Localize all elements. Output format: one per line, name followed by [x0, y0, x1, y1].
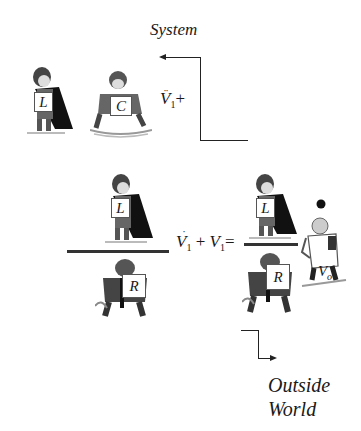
resistor-card-right: R [266, 264, 290, 290]
arrow-out-horizontal-top [241, 330, 258, 331]
arrow-in-horizontal-top [164, 57, 201, 58]
arrow-out-vertical [258, 330, 259, 359]
inductor-card-right: L [256, 198, 275, 218]
inductor-card-left: L [111, 198, 130, 218]
arrow-left-icon [159, 54, 166, 60]
system-label: System [150, 20, 197, 40]
capacitor-card: C [110, 96, 132, 116]
second-derivative-term: ¨ V1 + [160, 89, 185, 110]
arrow-in-horizontal-bottom [200, 140, 248, 141]
main-equation: ˙ V1 + V1= [176, 232, 234, 253]
left-fraction-bar [67, 250, 169, 253]
arrow-out-horizontal-bottom [258, 358, 270, 359]
resistor-card-left: R [122, 274, 146, 298]
voltage-card: Vo [313, 260, 337, 282]
right-fraction-bar [244, 243, 298, 246]
inductor-card-top: L [34, 92, 53, 112]
ddot-mark: ¨ [164, 87, 168, 102]
arrow-in-vertical [200, 57, 201, 141]
outside-world-label: Outside World [268, 373, 330, 421]
arrow-right-icon [270, 355, 277, 361]
dot-mark: ˙ [182, 228, 186, 243]
